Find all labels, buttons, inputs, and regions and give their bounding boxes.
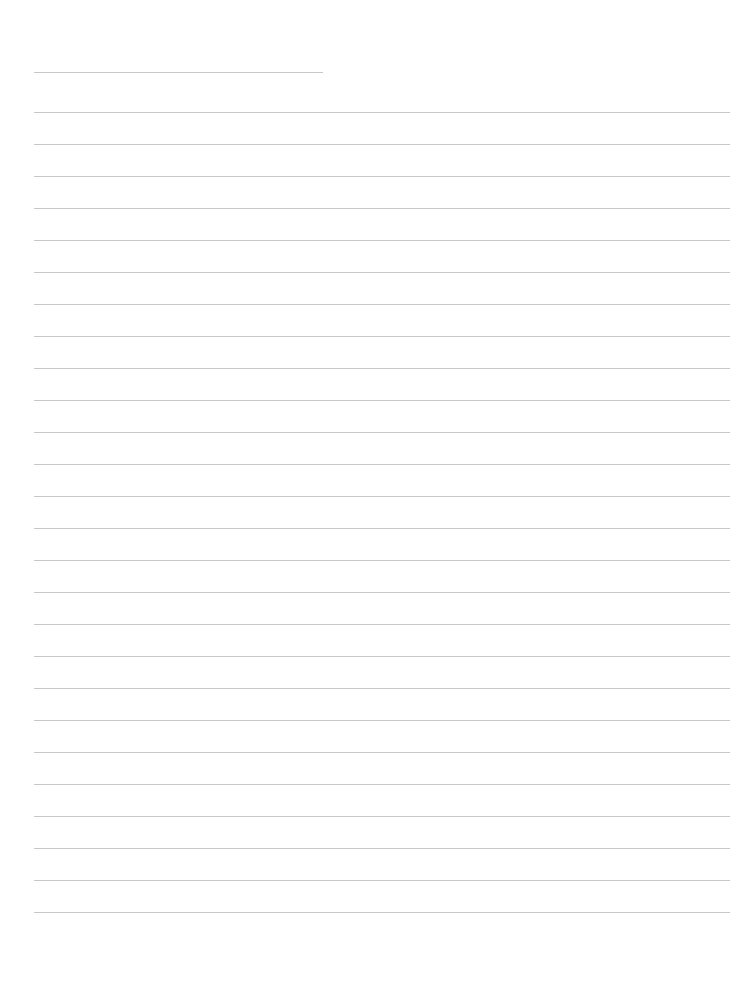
rule-line — [34, 784, 730, 785]
rule-line — [34, 720, 730, 721]
rule-line — [34, 304, 730, 305]
rule-line — [34, 560, 730, 561]
rule-line — [34, 400, 730, 401]
rule-line — [34, 496, 730, 497]
rule-line — [34, 240, 730, 241]
rule-line — [34, 176, 730, 177]
rule-line — [34, 848, 730, 849]
lined-paper-page — [0, 0, 747, 982]
rule-line — [34, 816, 730, 817]
header-rule-line — [34, 72, 323, 73]
rule-line — [34, 528, 730, 529]
rule-line — [34, 432, 730, 433]
rule-line — [34, 624, 730, 625]
rule-line — [34, 368, 730, 369]
rule-line — [34, 208, 730, 209]
rule-line — [34, 592, 730, 593]
rule-line — [34, 112, 730, 113]
rule-line — [34, 752, 730, 753]
rule-line — [34, 880, 730, 881]
rule-line — [34, 144, 730, 145]
rule-line — [34, 336, 730, 337]
rule-line — [34, 464, 730, 465]
rule-line — [34, 656, 730, 657]
rule-line — [34, 272, 730, 273]
rule-line — [34, 688, 730, 689]
rule-line — [34, 912, 730, 913]
